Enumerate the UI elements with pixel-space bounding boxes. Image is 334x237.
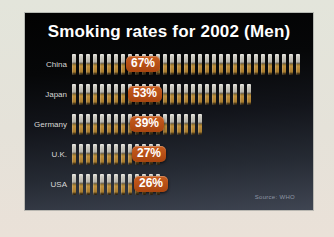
cigarette-icon	[170, 114, 174, 135]
cigarette-icon	[233, 54, 237, 75]
cigarette-icon	[114, 144, 118, 165]
cigarette-icon	[121, 174, 125, 195]
cigarette-icon	[107, 144, 111, 165]
cigarette-icon	[93, 174, 97, 195]
cigarette-icon	[86, 84, 90, 105]
cigarette-icon	[114, 54, 118, 75]
cigarette-icon	[212, 84, 216, 105]
cigarette-icon	[233, 84, 237, 105]
cigarette-icon	[254, 54, 258, 75]
cigarette-icon	[114, 174, 118, 195]
cigarette-icon	[226, 54, 230, 75]
cigarette-icon	[219, 84, 223, 105]
cigarette-icon	[275, 54, 279, 75]
chart-row-uk: U.K.27%	[25, 139, 313, 169]
row-label: USA	[25, 180, 67, 189]
cigarette-icon	[282, 54, 286, 75]
pictogram-bar: 53%	[72, 81, 251, 107]
cigarette-icon	[72, 174, 76, 195]
cigarette-icon	[93, 84, 97, 105]
cigarette-icon	[107, 114, 111, 135]
source-caption: Source: WHO	[255, 194, 295, 200]
cigarette-icon	[93, 114, 97, 135]
cigarette-icon	[114, 114, 118, 135]
photo-background: Smoking rates for 2002 (Men) China67%Jap…	[0, 0, 334, 237]
cigarette-icon	[72, 54, 76, 75]
cigarette-icon	[205, 84, 209, 105]
cigarette-icon	[128, 174, 132, 195]
slide: Smoking rates for 2002 (Men) China67%Jap…	[25, 13, 313, 210]
cigarette-icon	[79, 144, 83, 165]
cigarette-icon	[163, 84, 167, 105]
value-badge: 27%	[132, 146, 166, 162]
cigarette-icon	[72, 144, 76, 165]
cigarette-icon	[107, 174, 111, 195]
cigarette-icon	[79, 54, 83, 75]
cigarette-icon	[177, 114, 181, 135]
cigarette-icon	[86, 54, 90, 75]
row-label: Japan	[25, 90, 67, 99]
chart-row-japan: Japan53%	[25, 79, 313, 109]
cigarette-icon	[212, 54, 216, 75]
row-label: U.K.	[25, 150, 67, 159]
value-badge: 39%	[130, 116, 164, 132]
value-badge: 26%	[134, 176, 168, 192]
pictogram-bar: 27%	[72, 141, 160, 167]
cigarette-icon	[170, 54, 174, 75]
cigarette-icon	[121, 84, 125, 105]
cigarette-icon	[114, 84, 118, 105]
cigarette-icon	[79, 174, 83, 195]
pictogram-bar: 26%	[72, 171, 160, 197]
cigarette-icon	[86, 174, 90, 195]
cigarette-icon	[121, 114, 125, 135]
cigarette-icon	[177, 84, 181, 105]
cigarette-icon	[170, 84, 174, 105]
cigarette-icon	[247, 84, 251, 105]
row-label: Germany	[25, 120, 67, 129]
cigarette-icon	[72, 114, 76, 135]
cigarette-icon	[86, 144, 90, 165]
cigarette-icon	[72, 84, 76, 105]
cigarette-icon	[100, 174, 104, 195]
row-label: China	[25, 60, 67, 69]
value-badge: 67%	[126, 56, 160, 72]
cigarette-icon	[93, 144, 97, 165]
cigarette-icon	[86, 114, 90, 135]
value-badge: 53%	[128, 86, 162, 102]
cigarette-icon	[219, 54, 223, 75]
cigarette-icon	[198, 54, 202, 75]
chart-row-china: China67%	[25, 49, 313, 79]
cigarette-icon	[296, 54, 300, 75]
cigarette-icon	[100, 84, 104, 105]
cigarette-icon	[100, 54, 104, 75]
cigarette-icon	[79, 114, 83, 135]
cigarette-icon	[226, 84, 230, 105]
cigarette-icon	[184, 54, 188, 75]
cigarette-icon	[240, 54, 244, 75]
cigarette-icon	[100, 144, 104, 165]
chart-rows: China67%Japan53%Germany39%U.K.27%USA26%	[25, 49, 313, 199]
cigarette-icon	[121, 54, 125, 75]
cigarette-icon	[198, 114, 202, 135]
cigarette-icon	[107, 54, 111, 75]
cigarette-icon	[289, 54, 293, 75]
cigarette-icon	[268, 54, 272, 75]
cigarette-icon	[261, 54, 265, 75]
cigarette-icon	[205, 54, 209, 75]
cigarette-icon	[191, 114, 195, 135]
cigarette-icon	[198, 84, 202, 105]
cigarette-icon	[107, 84, 111, 105]
cigarette-icon	[163, 54, 167, 75]
cigarette-icon	[191, 84, 195, 105]
cigarette-icon	[177, 54, 181, 75]
cigarette-icon	[184, 84, 188, 105]
cigarette-icon	[240, 84, 244, 105]
pictogram-bar: 39%	[72, 111, 202, 137]
cigarette-icon	[184, 114, 188, 135]
cigarette-icon	[93, 54, 97, 75]
chart-title: Smoking rates for 2002 (Men)	[25, 22, 313, 42]
pictogram-bar: 67%	[72, 51, 300, 77]
chart-row-germany: Germany39%	[25, 109, 313, 139]
cigarette-icon	[79, 84, 83, 105]
cigarette-icon	[191, 54, 195, 75]
